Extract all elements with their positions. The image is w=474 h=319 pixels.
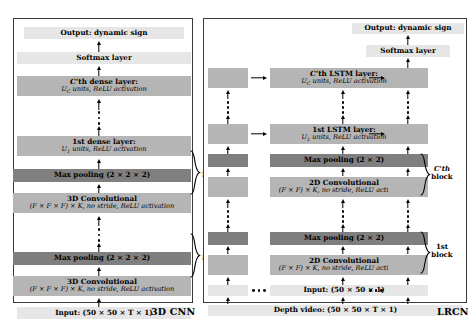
layer-maxpool-1: Max pooling (2 × 2 × 2) <box>13 252 191 265</box>
lrcn-layer-maxpool-1-label: Max pooling (2 × 2) <box>304 234 384 242</box>
lrcn-t0-conv-1 <box>208 255 248 275</box>
lrcn-layer-softmax: Softmax layer <box>366 45 450 57</box>
layer-dense-1: 1st dense layer: U1 units, ReLU activati… <box>17 136 191 156</box>
layer-softmax-label: Softmax layer <box>76 54 131 62</box>
lrcn-t0-input <box>208 285 248 296</box>
lrcn-tn-lstm-1 <box>388 124 428 144</box>
lrcn-tn-input <box>388 285 428 296</box>
lrcn-t0-lstm-c <box>208 68 248 88</box>
lrcn-layer-softmax-label: Softmax layer <box>380 47 435 55</box>
block-label-1-lrcn-line2: block <box>431 250 452 259</box>
layer-conv3d-1-detail: (F × F × F) × K, no stride, ReLU activat… <box>30 286 175 293</box>
lrcn-ellipsis-timesteps-right <box>369 289 383 292</box>
lrcn-layer-output: Output: dynamic sign <box>352 23 464 34</box>
lrcn-t0-maxpool-1 <box>208 232 248 245</box>
block-label-c-lrcn: C'th block <box>429 165 455 182</box>
lrcn-layer-maxpool-c-label: Max pooling (2 × 2) <box>304 156 384 164</box>
block-label-c-lrcn-line2: block <box>431 172 452 181</box>
lrcn-t0-maxpool-c <box>208 154 248 167</box>
layer-output-label: Output: dynamic sign <box>61 29 148 37</box>
ellipsis-dense <box>98 111 101 125</box>
layer-dense-1-detail: U1 units, ReLU activation <box>61 146 146 155</box>
ellipsis-blocks <box>98 228 101 242</box>
panel-3d-cnn: Output: dynamic sign Softmax layer C’th … <box>13 18 193 303</box>
lrcn-tn-ellipsis-blocks <box>407 210 410 223</box>
layer-input-label: Input: (50 × 50 × T × 1) <box>55 309 153 317</box>
layer-maxpool-c: Max pooling (2 × 2 × 2) <box>13 169 191 182</box>
lrcn-ellipsis-timesteps-left <box>252 289 266 292</box>
lrcn-t0-conv-c <box>208 177 248 197</box>
layer-dense-c: C’th dense layer: UC units, ReLU activat… <box>17 76 191 96</box>
lrcn-t0-ellipsis-blocks <box>227 210 230 223</box>
caption-lrcn: LRCN <box>437 306 469 317</box>
layer-conv3d-1: 3D Convolutional (F × F × F) × K, no str… <box>13 276 191 296</box>
lrcn-layer-output-label: Output: dynamic sign <box>365 24 452 32</box>
layer-conv3d-c: 3D Convolutional (F × F × F) × K, no str… <box>13 193 191 213</box>
lrcn-t0-lstm-1 <box>208 124 248 144</box>
layer-dense-c-detail: UC units, ReLU activation <box>61 86 147 95</box>
lrcn-layer-lstm-1-detail: U1 units, ReLU activation <box>301 134 386 143</box>
layer-softmax: Softmax layer <box>17 52 191 64</box>
lrcn-t0-ellipsis-lstm <box>227 101 230 114</box>
layer-maxpool-c-label: Max pooling (2 × 2 × 2) <box>54 171 150 179</box>
lrcn-tn-lstm-c <box>388 68 428 88</box>
lrcn-center-ellipsis-lstm <box>342 101 345 114</box>
layer-maxpool-1-label: Max pooling (2 × 2 × 2) <box>54 254 150 262</box>
layer-conv3d-c-detail: (F × F × F) × K, no stride, ReLU activat… <box>30 203 175 210</box>
lrcn-tn-ellipsis-lstm <box>407 101 410 114</box>
layer-output: Output: dynamic sign <box>24 27 184 39</box>
lrcn-layer-lstm-c-detail: UC units, ReLU activation <box>301 78 387 87</box>
lrcn-center-ellipsis-blocks <box>342 210 345 223</box>
lrcn-layer-depth-video: Depth video: (50 × 50 × T × 1) <box>208 305 463 316</box>
lrcn-layer-depth-video-label: Depth video: (50 × 50 × T × 1) <box>274 306 398 314</box>
caption-3d-cnn: 3D CNN <box>151 306 195 317</box>
block-label-1-lrcn: 1st block <box>429 243 455 260</box>
